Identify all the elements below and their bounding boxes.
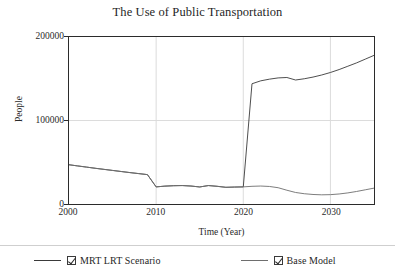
legend-line-swatch-icon [34, 260, 61, 261]
x-tick-label-2020: 2020 [219, 207, 267, 218]
x-axis-title: Time (Year) [68, 227, 375, 237]
plot-area [68, 36, 375, 205]
checkbox-checked-icon[interactable] [67, 256, 76, 265]
x-tick-label-2030: 2030 [307, 207, 355, 218]
y-axis-title: People [14, 79, 24, 139]
chart-title: The Use of Public Transportation [0, 5, 395, 20]
chart-legend: MRT LRT Scenario Base Model [0, 246, 395, 275]
legend-line-swatch-icon [241, 260, 268, 261]
chart-container: The Use of Public Transportation People … [0, 0, 395, 275]
x-tick-label-2000: 2000 [44, 207, 92, 218]
legend-label-mrt-lrt-scenario: MRT LRT Scenario [80, 255, 161, 266]
legend-item-base-model[interactable]: Base Model [241, 255, 336, 266]
y-tick-label-100000: 100000 [4, 115, 64, 125]
series-line-1 [69, 55, 374, 187]
y-tick-label-200000: 200000 [4, 31, 64, 41]
legend-item-mrt-lrt-scenario[interactable]: MRT LRT Scenario [34, 255, 161, 266]
legend-label-base-model: Base Model [287, 255, 336, 266]
checkbox-checked-icon[interactable] [274, 256, 283, 265]
plot-svg [69, 37, 374, 204]
x-tick-label-2010: 2010 [132, 207, 180, 218]
series-line-2 [69, 165, 374, 195]
